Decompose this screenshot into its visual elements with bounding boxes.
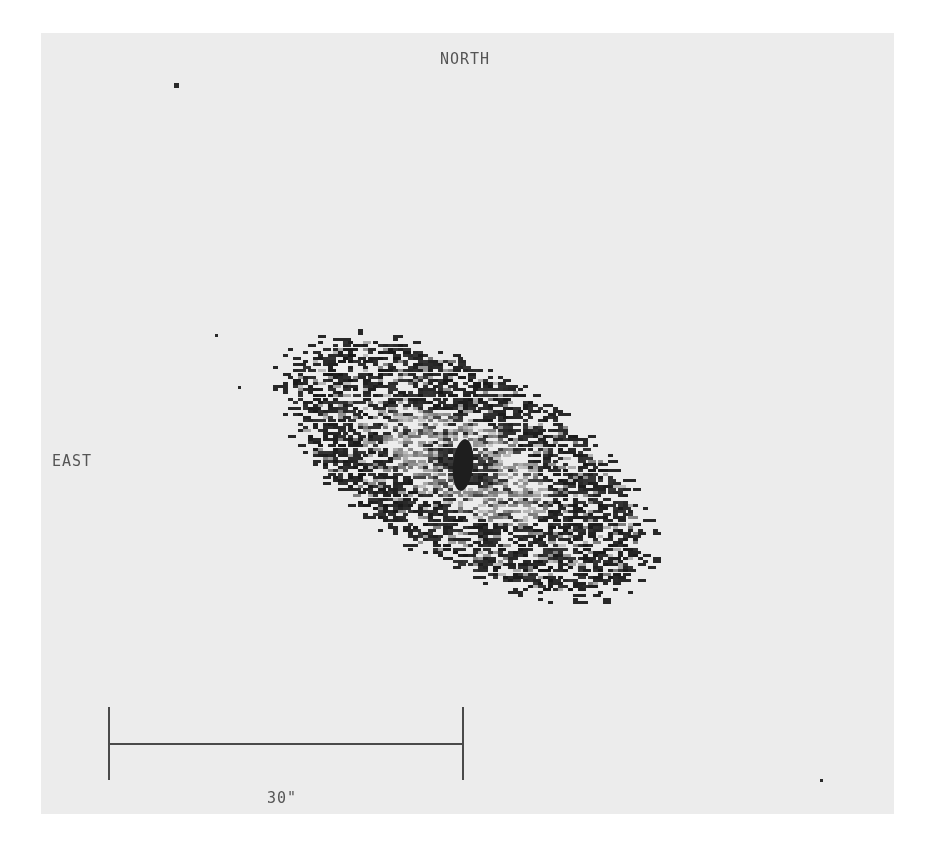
- scale-bar-label: 30": [267, 791, 297, 806]
- scale-bar-line: [108, 743, 464, 745]
- star-point: [820, 779, 823, 782]
- galaxy-image: [41, 33, 894, 814]
- east-label: EAST: [52, 454, 92, 469]
- scale-bar-right-tick: [462, 707, 464, 780]
- scale-bar: [108, 707, 464, 780]
- north-label: NORTH: [440, 52, 490, 67]
- image-panel: NORTH EAST 30": [41, 33, 894, 814]
- star-point: [215, 334, 218, 337]
- star-point: [238, 386, 241, 389]
- star-point: [174, 83, 179, 88]
